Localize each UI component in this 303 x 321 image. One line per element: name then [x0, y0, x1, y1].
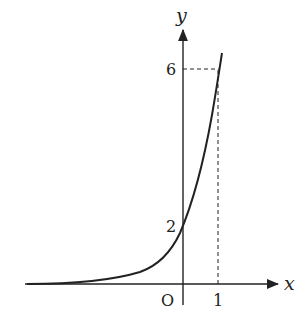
y-tick-6: 6	[166, 60, 176, 79]
y-tick-2: 2	[166, 217, 176, 236]
origin-label: O	[161, 291, 174, 310]
exponential-curve	[27, 53, 222, 284]
graph-canvas: y x O 1 2 6	[0, 0, 303, 321]
y-axis-label: y	[175, 4, 187, 26]
x-axis-label: x	[284, 272, 295, 294]
x-tick-1: 1	[213, 291, 223, 310]
